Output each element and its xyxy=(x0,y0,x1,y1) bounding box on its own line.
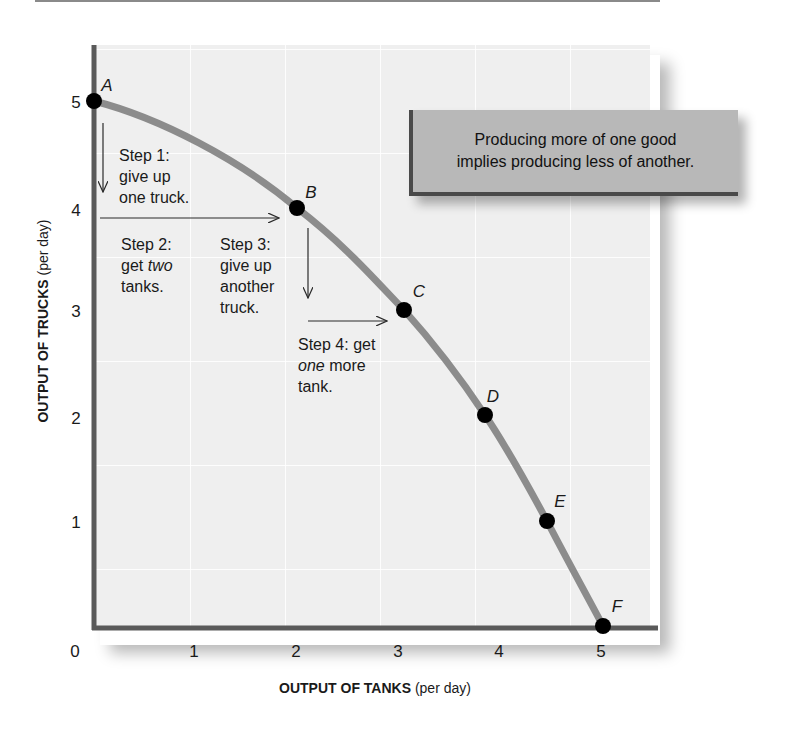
callout-box: Producing more of one good implies produ… xyxy=(409,110,738,196)
step3-line2: give up xyxy=(220,255,274,276)
point-d-marker xyxy=(477,407,493,423)
x-axis-title: OUTPUT OF TANKS (per day) xyxy=(279,680,471,696)
step2-line2-pre: get xyxy=(121,257,148,274)
step4-line2-emphasis: one xyxy=(298,357,325,374)
step2-annotation: Step 2: get two tanks. xyxy=(121,234,173,297)
x-tick-4: 4 xyxy=(494,642,503,662)
step1-annotation: Step 1: give up one truck. xyxy=(119,145,189,208)
y-axis-title: OUTPUT OF TRUCKS (per day) xyxy=(35,219,51,422)
step4-annotation: Step 4: get one more tank. xyxy=(298,334,375,397)
x-axis-title-main: OUTPUT OF TANKS xyxy=(279,680,411,696)
point-c-label: C xyxy=(413,282,425,302)
step3-line4: truck. xyxy=(220,297,274,318)
x-tick-2: 2 xyxy=(291,642,300,662)
step3-line1: Step 3: xyxy=(220,234,274,255)
step1-line3: one truck. xyxy=(119,187,189,208)
point-b-label: B xyxy=(305,183,316,203)
y-tick-4: 4 xyxy=(71,201,80,221)
point-e-marker xyxy=(539,513,555,529)
point-a-marker xyxy=(86,93,102,109)
point-c-marker xyxy=(396,302,412,318)
point-b-marker xyxy=(289,200,305,216)
y-axis-title-unit: (per day) xyxy=(35,219,51,279)
x-tick-1: 1 xyxy=(189,642,198,662)
point-f-label: F xyxy=(612,597,622,617)
y-tick-1: 1 xyxy=(71,513,80,533)
step2-line1: Step 2: xyxy=(121,234,173,255)
step3-annotation: Step 3: give up another truck. xyxy=(220,234,274,318)
point-a-label: A xyxy=(101,76,112,96)
step1-line1: Step 1: xyxy=(119,145,189,166)
step4-line1: Step 4: get xyxy=(298,334,375,355)
point-f-marker xyxy=(595,618,611,634)
x-tick-0: 0 xyxy=(70,642,79,662)
y-axis-title-main: OUTPUT OF TRUCKS xyxy=(35,279,51,422)
x-tick-5: 5 xyxy=(596,642,605,662)
callout-line2: implies producing less of another. xyxy=(457,151,694,173)
y-tick-3: 3 xyxy=(71,302,80,322)
step4-line3: tank. xyxy=(298,376,375,397)
step3-line3: another xyxy=(220,276,274,297)
x-tick-3: 3 xyxy=(393,642,402,662)
point-e-label: E xyxy=(554,492,565,512)
step2-line3: tanks. xyxy=(121,276,173,297)
step2-line2-emphasis: two xyxy=(148,257,173,274)
step4-line2-post: more xyxy=(325,357,366,374)
callout-line1: Producing more of one good xyxy=(457,129,694,151)
x-axis-title-unit: (per day) xyxy=(411,680,471,696)
y-tick-2: 2 xyxy=(71,409,80,429)
step1-line2: give up xyxy=(119,166,189,187)
point-d-label: D xyxy=(487,387,499,407)
y-tick-5: 5 xyxy=(71,93,80,113)
step2-line2: get two xyxy=(121,255,173,276)
step4-line2: one more xyxy=(298,355,375,376)
